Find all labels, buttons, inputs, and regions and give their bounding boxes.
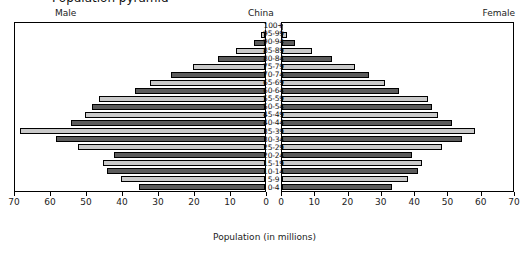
axis-tick [447,192,448,196]
bar-row [282,71,513,79]
bar [71,120,265,126]
axis-tick-label: 0 [263,197,269,207]
male-bar-rows [15,23,265,191]
bar-row [282,63,513,71]
axis-tick-label: 20 [342,197,353,207]
bar-row [15,39,265,47]
bar-row [15,103,265,111]
axis-tick [86,192,87,196]
bar-row [282,167,513,175]
bar [282,56,332,62]
bar-row [282,175,513,183]
bar [282,184,392,190]
bar [171,72,265,78]
bar [150,80,265,86]
chart-title: Population pyramid [52,0,169,5]
bar [193,64,265,70]
bar-row [282,119,513,127]
bar [282,152,412,158]
bar-row [282,55,513,63]
bar-row [282,87,513,95]
bar-row [282,183,513,191]
bar [282,96,428,102]
bar-row [15,159,265,167]
axis-tick-label: 60 [475,197,486,207]
axis-tick [194,192,195,196]
axis-tick-label: 60 [44,197,55,207]
bar-row [282,79,513,87]
bar [282,168,418,174]
bar [282,144,442,150]
bar [282,64,355,70]
axis-tick [281,192,282,196]
bar-row [15,71,265,79]
axis-tick-label: 10 [224,197,235,207]
axis-tick-label: 30 [152,197,163,207]
age-group-axis: 100+95-9990-9485-8980-8475-7970-7465-696… [266,22,281,192]
age-group-label: 0-4 [266,184,281,192]
axis-tick-label: 40 [116,197,127,207]
bar-row [15,87,265,95]
bar-row [282,127,513,135]
axis-tick [414,192,415,196]
axis-tick [481,192,482,196]
bar-row [15,175,265,183]
bar-row [282,95,513,103]
bar [85,112,265,118]
bar [218,56,265,62]
bar-row [282,159,513,167]
bar [56,136,265,142]
axis-tick-label: 0 [278,197,284,207]
bar-row [282,111,513,119]
male-x-axis: 706050403020100 [14,192,266,210]
axis-tick [314,192,315,196]
bar [282,104,432,110]
bar [282,128,475,134]
bar-row [282,143,513,151]
bar [139,184,265,190]
bar [135,88,265,94]
bar-row [15,119,265,127]
bar-row [15,143,265,151]
bar [114,152,265,158]
bar [282,120,452,126]
bar [92,104,265,110]
female-bar-rows [282,23,513,191]
bar [103,160,265,166]
bar-row [15,135,265,143]
bar-row [282,151,513,159]
axis-tick [14,192,15,196]
bar [121,176,265,182]
bar [282,160,422,166]
bar-row [15,167,265,175]
axis-tick-label: 50 [442,197,453,207]
bar-row [15,183,265,191]
bar-row [15,31,265,39]
bar-row [15,151,265,159]
bar-row [15,95,265,103]
bar-row [15,63,265,71]
bar-row [15,55,265,63]
axis-tick-label: 30 [375,197,386,207]
bar [236,48,265,54]
bar [99,96,265,102]
x-axis-title: Population (in millions) [0,232,529,242]
bar [282,48,312,54]
bar-row [15,23,265,31]
axis-tick-label: 70 [8,197,19,207]
male-side-label: Male [55,8,76,18]
axis-tick-label: 50 [80,197,91,207]
bar [282,136,462,142]
axis-tick [348,192,349,196]
axis-tick-label: 40 [408,197,419,207]
axis-tick [230,192,231,196]
bar [282,72,369,78]
bar [107,168,265,174]
age-group-label: 40-44 [266,119,281,127]
bar-row [282,31,513,39]
axis-tick-label: 10 [309,197,320,207]
bar-row [15,79,265,87]
bar-row [15,47,265,55]
bar [282,112,438,118]
axis-tick [122,192,123,196]
